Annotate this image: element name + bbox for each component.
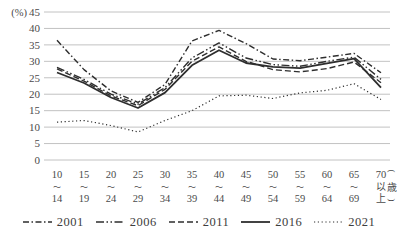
legend-item-2006: 2006: [95, 216, 157, 229]
legend-label-2021: 2021: [348, 216, 375, 229]
x-tick-bottom-54: 54: [268, 193, 279, 204]
y-tick-label-45: 45: [29, 6, 41, 18]
x-tick-bottom-59: 59: [295, 193, 306, 204]
x-tick-mid: 〜: [80, 183, 88, 192]
legend-item-2016: 2016: [240, 216, 302, 229]
x-tick-top-15: 15: [79, 169, 90, 180]
y-tick-label-30: 30: [29, 55, 41, 67]
x-tick-mid: 以: [376, 181, 386, 192]
x-tick-bottom-39: 39: [187, 193, 198, 204]
x-axis-unit-paren-open: (: [387, 170, 397, 173]
y-tick-label-35: 35: [29, 39, 41, 51]
x-tick-bottom-19: 19: [79, 193, 90, 204]
x-tick-top-25: 25: [133, 169, 144, 180]
x-tick-mid: 〜: [215, 183, 223, 192]
x-tick-mid: 〜: [350, 183, 358, 192]
x-tick-mid: 〜: [161, 183, 169, 192]
series-line-2016: [57, 50, 381, 108]
x-tick-bottom-64: 64: [322, 193, 333, 204]
series-line-2021: [57, 84, 381, 132]
y-tick-label-15: 15: [29, 104, 41, 116]
x-tick-mid: 〜: [134, 183, 142, 192]
x-tick-bottom-上: 上: [376, 193, 386, 204]
x-tick-top-35: 35: [187, 169, 198, 180]
chart-legend: 20012006201120162021: [0, 209, 397, 235]
legend-line-sample-2011: [168, 217, 199, 227]
legend-item-2001: 2001: [22, 216, 84, 229]
y-axis-unit-label: (%): [11, 7, 27, 19]
legend-item-2021: 2021: [313, 216, 375, 229]
x-tick-mid: 〜: [296, 183, 304, 192]
series-line-2011: [57, 47, 381, 106]
x-tick-mid: 〜: [188, 183, 196, 192]
x-tick-mid: 〜: [269, 183, 277, 192]
line-chart-canvas: 454035302520151050(%)10〜1415〜1920〜2425〜2…: [0, 0, 397, 209]
x-tick-top-65: 65: [349, 169, 360, 180]
legend-line-sample-2006: [95, 217, 126, 227]
legend-line-sample-2001: [22, 217, 53, 227]
series-line-2001: [57, 30, 381, 102]
legend-line-sample-2016: [240, 217, 271, 227]
x-tick-mid: 〜: [53, 183, 61, 192]
x-tick-bottom-34: 34: [160, 193, 171, 204]
x-tick-bottom-49: 49: [241, 193, 252, 204]
y-tick-label-5: 5: [35, 137, 41, 149]
x-tick-top-30: 30: [160, 169, 171, 180]
legend-label-2001: 2001: [57, 216, 84, 229]
x-tick-bottom-24: 24: [106, 193, 117, 204]
x-axis-unit-paren-close: ): [387, 199, 397, 202]
x-tick-top-20: 20: [106, 169, 117, 180]
x-tick-mid: 〜: [323, 183, 331, 192]
x-axis-unit-label: 歳: [387, 182, 397, 193]
y-tick-label-25: 25: [29, 72, 41, 84]
x-tick-bottom-14: 14: [52, 193, 63, 204]
x-tick-mid: 〜: [242, 183, 250, 192]
y-tick-label-20: 20: [29, 88, 41, 100]
x-tick-top-55: 55: [295, 169, 306, 180]
x-tick-top-10: 10: [52, 169, 63, 180]
legend-line-sample-2021: [313, 217, 344, 227]
line-chart-figure: 454035302520151050(%)10〜1415〜1920〜2425〜2…: [0, 0, 397, 237]
legend-label-2016: 2016: [275, 216, 302, 229]
y-tick-label-10: 10: [29, 121, 41, 133]
legend-label-2006: 2006: [130, 216, 157, 229]
x-tick-top-70: 70: [376, 169, 387, 180]
y-tick-label-40: 40: [29, 22, 41, 34]
x-tick-top-60: 60: [322, 169, 333, 180]
x-tick-top-40: 40: [214, 169, 225, 180]
y-tick-label-0: 0: [35, 154, 41, 166]
x-tick-mid: 〜: [107, 183, 115, 192]
x-tick-bottom-29: 29: [133, 193, 144, 204]
legend-label-2011: 2011: [203, 216, 230, 229]
legend-item-2011: 2011: [168, 216, 230, 229]
x-tick-top-45: 45: [241, 169, 252, 180]
x-tick-bottom-44: 44: [214, 193, 225, 204]
x-tick-top-50: 50: [268, 169, 279, 180]
x-tick-bottom-69: 69: [349, 193, 360, 204]
